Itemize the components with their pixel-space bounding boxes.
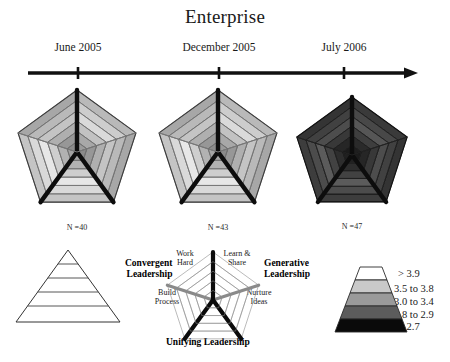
pentagon-spoke-thin — [352, 137, 407, 155]
pentagon-gridline — [48, 121, 107, 177]
pyramid-level-road-map: Road Map — [18, 309, 118, 318]
pentagon-band — [352, 152, 361, 163]
pentagon-band — [47, 185, 108, 193]
pentagon-band — [324, 126, 352, 149]
pentagon-band — [343, 152, 352, 163]
pentagon-band — [230, 142, 247, 177]
page-title: Enterprise — [0, 6, 450, 28]
legend-band-label-4: 2.8 to 2.9 — [394, 309, 434, 320]
legend-band-swatch-1 — [355, 267, 387, 280]
pentagon-band — [218, 149, 228, 161]
timeline-arrowhead — [404, 68, 418, 79]
axis-label-work-hard: WorkHard — [168, 249, 202, 267]
pentagon-band — [380, 137, 407, 202]
pentagon-band — [212, 152, 224, 160]
pentagon-band — [159, 90, 218, 136]
axis-label-nurture-ideas: NurtureIdeas — [240, 288, 278, 306]
timeline-label-july-2006: July 2006 — [284, 41, 404, 53]
model-web-segment — [186, 291, 196, 323]
pentagon-band — [363, 146, 379, 178]
pentagon-gridline — [198, 131, 237, 168]
pentagon-band — [169, 136, 194, 194]
pentagon-band — [335, 171, 369, 179]
pentagon-band — [318, 194, 386, 202]
pentagon-band — [352, 145, 361, 155]
pentagon-band — [188, 185, 249, 193]
pentagon-spoke-thin — [218, 133, 277, 152]
pentagon-band — [242, 136, 267, 194]
pentagon-band — [352, 136, 370, 152]
pentagon-band — [206, 160, 230, 168]
model-gridline — [186, 271, 241, 323]
legend-band-label-2: 3.5 to 3.8 — [394, 283, 434, 294]
model-web-segment — [219, 297, 222, 308]
pentagon-band — [343, 145, 352, 155]
pentagon-spoke — [318, 155, 352, 202]
pentagon-chart-2 — [159, 90, 277, 202]
pentagon-band — [77, 131, 97, 148]
pentagon-band — [352, 126, 380, 149]
panel-n-label-2: N =43 — [168, 223, 268, 232]
model-gridline — [176, 262, 249, 331]
quadrant-label-convergent-leadership: ConvergentLeadership — [125, 258, 173, 279]
pyramid-level-decisions: Decisions — [18, 280, 118, 289]
model-web-segment — [213, 271, 240, 291]
pentagon-band — [77, 121, 106, 146]
timeline-label-december-2005: December 2005 — [159, 41, 279, 53]
timeline-label-june-2005: June 2005 — [18, 41, 138, 53]
pentagon-band — [306, 140, 329, 194]
panel-n-label-1: N =40 — [27, 223, 127, 232]
pentagon-band — [200, 169, 236, 177]
pentagon-spoke-thin — [297, 137, 352, 155]
pentagon-band — [182, 194, 255, 202]
figure-root: Enterprise June 2005 December 2005 July … — [0, 0, 450, 362]
pentagon-band — [77, 100, 126, 139]
pentagon-chart-3 — [297, 97, 407, 202]
pentagon-gridline — [67, 142, 87, 161]
pentagon-band — [53, 177, 102, 185]
pentagon-band — [315, 143, 335, 186]
model-gridline — [195, 281, 232, 316]
pentagon-chart-1 — [18, 90, 136, 202]
pentagon-gridline — [315, 116, 389, 186]
axis-label-build-process: BuildProcess — [148, 288, 186, 306]
model-web-segment — [213, 281, 231, 294]
quadrant-label-generative-leadership: GenerativeLeadership — [264, 258, 310, 279]
pentagon-band — [59, 169, 95, 177]
pentagon-gridline — [179, 111, 258, 186]
pentagon-band — [65, 160, 89, 168]
pentagon-band — [218, 121, 247, 146]
pentagon-band — [41, 194, 114, 202]
pentagon-gridline — [28, 100, 126, 193]
pentagon-band — [57, 146, 71, 169]
pentagon-band — [189, 121, 218, 146]
pentagon-band — [341, 163, 364, 171]
pentagon-gridline — [324, 126, 379, 178]
pentagon-band — [77, 142, 87, 152]
panel-n-label-3: N =47 — [302, 222, 402, 231]
pentagon-band — [375, 140, 398, 194]
pentagon-band — [352, 97, 407, 140]
model-web-segment — [213, 290, 222, 297]
pentagon-band — [179, 111, 218, 143]
pentagon-band — [71, 152, 83, 160]
pentagon-band — [89, 142, 106, 177]
legend-band-label-3: 3.0 to 3.4 — [394, 296, 434, 307]
pentagon-band — [28, 100, 77, 139]
pentagon-band — [28, 136, 53, 194]
legend-band-swatch-2 — [350, 280, 392, 293]
pentagon-band — [334, 136, 352, 152]
legend-band-swatch-3 — [345, 293, 397, 306]
pentagon-spoke — [182, 152, 218, 202]
pentagon-band — [324, 186, 381, 194]
pentagon-band — [306, 107, 352, 143]
pentagon-spoke-thin — [77, 133, 136, 152]
legend-band-swatch-4 — [340, 306, 402, 319]
pentagon-band — [159, 133, 188, 202]
pentagon-band — [236, 139, 257, 185]
pentagon-band — [224, 146, 238, 169]
pentagon-band — [38, 139, 59, 185]
pentagon-band — [169, 100, 218, 139]
model-axis-black — [213, 300, 241, 339]
model-web-segment — [195, 281, 213, 294]
